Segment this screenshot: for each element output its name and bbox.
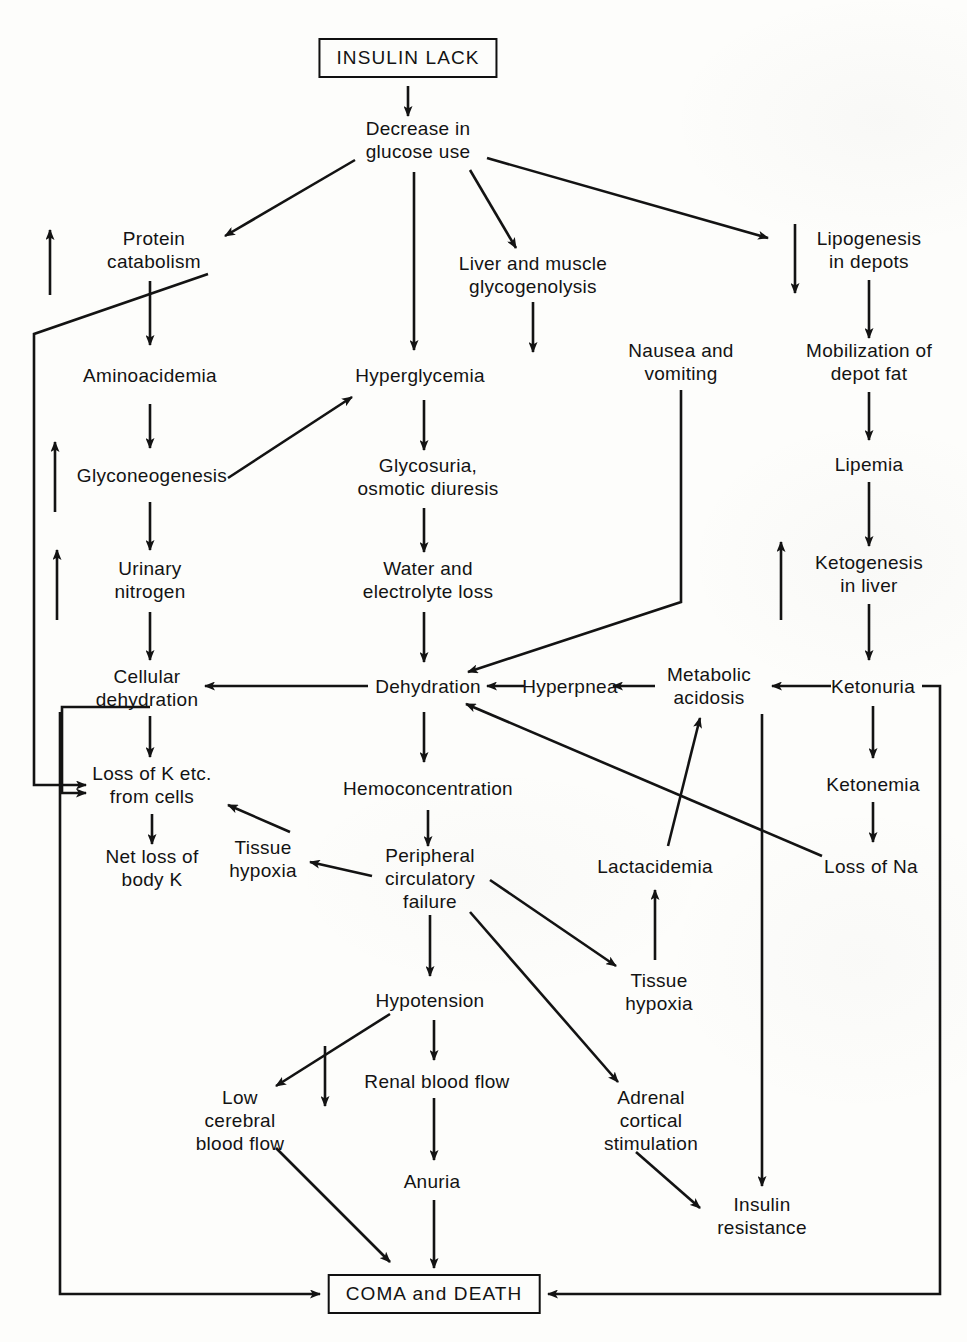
node-cellular-dehydration: Cellular dehydration	[96, 665, 199, 711]
node-urinary-nitrogen: Urinary nitrogen	[114, 557, 185, 603]
node-coma-death: COMA and DEATH	[328, 1274, 541, 1314]
node-adrenal-stimulation: Adrenal cortical stimulation	[604, 1086, 698, 1155]
node-anuria: Anuria	[404, 1170, 461, 1193]
edge-tissue-hypoxia-left-to-loss-of-k	[228, 805, 290, 832]
edge-nausea-vomiting-to-dehydration	[468, 390, 681, 672]
node-decrease-glucose: Decrease in glucose use	[366, 117, 471, 163]
node-hyperpnea: Hyperpnea	[522, 675, 618, 698]
edge-lactacidemia-to-metabolic-acidosis	[668, 718, 700, 846]
node-low-cerebral: Low cerebral blood flow	[196, 1086, 285, 1155]
node-loss-of-na: Loss of Na	[824, 855, 918, 878]
node-net-loss-body-k: Net loss of body K	[105, 845, 198, 891]
edge-peripheral-failure-to-tissue-hypoxia-right	[490, 880, 616, 966]
node-nausea-vomiting: Nausea and vomiting	[628, 339, 733, 385]
node-aminoacidemia: Aminoacidemia	[83, 364, 217, 387]
node-glyconeogenesis: Glyconeogenesis	[77, 464, 227, 487]
flowchart-page: INSULIN LACKDecrease in glucose useProte…	[0, 0, 967, 1342]
node-insulin-resistance: Insulin resistance	[717, 1193, 807, 1239]
node-lipemia: Lipemia	[835, 453, 904, 476]
edge-glyconeogenesis-to-hyperglycemia	[228, 397, 352, 478]
edge-decrease-glucose-to-lipogenesis	[487, 158, 768, 238]
node-loss-of-k: Loss of K etc. from cells	[92, 762, 211, 808]
edge-peripheral-failure-to-tissue-hypoxia-left	[310, 862, 372, 876]
node-protein-catabolism: Protein catabolism	[107, 227, 201, 273]
node-insulin-lack: INSULIN LACK	[318, 38, 497, 78]
node-hypotension: Hypotension	[376, 989, 485, 1012]
node-ketogenesis: Ketogenesis in liver	[815, 551, 923, 597]
node-water-electrolyte: Water and electrolyte loss	[363, 557, 493, 603]
node-mobilization-fat: Mobilization of depot fat	[806, 339, 932, 385]
node-tissue-hypoxia-right: Tissue hypoxia	[625, 969, 693, 1015]
node-dehydration: Dehydration	[375, 675, 481, 698]
node-renal-blood-flow: Renal blood flow	[364, 1070, 509, 1093]
node-lactacidemia: Lactacidemia	[597, 855, 713, 878]
edge-low-cerebral-to-coma-death	[276, 1148, 390, 1262]
node-hyperglycemia: Hyperglycemia	[355, 364, 485, 387]
edge-adrenal-stimulation-to-insulin-resistance	[636, 1152, 700, 1208]
edge-decrease-glucose-to-protein-catabolism	[225, 160, 355, 236]
node-tissue-hypoxia-left: Tissue hypoxia	[229, 836, 297, 882]
node-lipogenesis: Lipogenesis in depots	[817, 227, 922, 273]
node-hemoconcentration: Hemoconcentration	[343, 777, 513, 800]
node-ketonuria: Ketonuria	[831, 675, 915, 698]
node-peripheral-failure: Peripheral circulatory failure	[385, 844, 475, 913]
node-metabolic-acidosis: Metabolic acidosis	[667, 663, 751, 709]
edge-decrease-glucose-to-liver-glycogenolysis	[470, 170, 516, 248]
edge-loss-of-na-to-dehydration	[466, 704, 822, 856]
node-ketonemia: Ketonemia	[826, 773, 920, 796]
node-liver-glycogenolysis: Liver and muscle glycogenolysis	[459, 252, 607, 298]
node-glycosuria: Glycosuria, osmotic diuresis	[357, 454, 498, 500]
edge-peripheral-failure-to-adrenal-stimulation	[470, 912, 618, 1082]
